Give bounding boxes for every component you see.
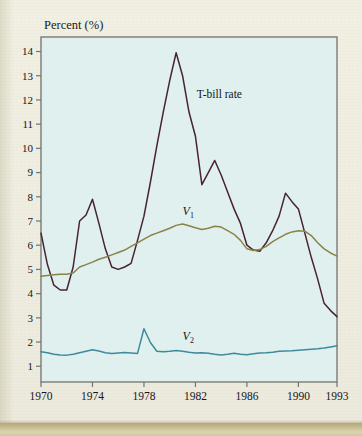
- y-tick-label: 11: [22, 118, 33, 130]
- series-label-v1-subscript: 1: [190, 211, 194, 220]
- series-label-tbill: T-bill rate: [197, 88, 242, 100]
- y-tick-label: 14: [22, 45, 34, 57]
- y-tick-label: 13: [22, 70, 34, 82]
- y-tick-label: 2: [28, 336, 34, 348]
- x-tick-label: 1986: [235, 390, 258, 402]
- x-tick-label: 1970: [30, 390, 53, 402]
- x-tick-label: 1978: [132, 390, 155, 402]
- line-chart: 1234567891011121314 19701974197819821986…: [0, 0, 362, 410]
- y-tick-label: 3: [28, 312, 34, 324]
- y-tick-label: 6: [28, 239, 34, 251]
- y-tick-label: 9: [28, 166, 34, 178]
- series-label-v2-subscript: 2: [190, 336, 194, 345]
- y-tick-label: 4: [28, 287, 34, 299]
- x-tick-label: 1993: [326, 390, 349, 402]
- y-tick-label: 8: [28, 191, 34, 203]
- x-tick-label: 1974: [81, 390, 104, 402]
- chart-container: 1234567891011121314 19701974197819821986…: [0, 0, 362, 410]
- y-tick-label: 1: [28, 360, 34, 372]
- y-tick-label: 7: [28, 215, 34, 227]
- y-tick-label: 5: [28, 263, 34, 275]
- y-tick-label: 12: [22, 94, 33, 106]
- page-bottom-strip: [0, 423, 362, 436]
- y-tick-label: 10: [22, 142, 34, 154]
- x-axis-tick-labels: 1970197419781982198619901993: [30, 390, 349, 402]
- y-axis-title: Percent (%): [44, 18, 103, 32]
- x-axis-ticks: [41, 382, 337, 387]
- y-axis-tick-labels: 1234567891011121314: [22, 45, 34, 372]
- x-tick-label: 1982: [184, 390, 207, 402]
- x-tick-label: 1990: [287, 390, 310, 402]
- y-axis-ticks: [36, 52, 41, 367]
